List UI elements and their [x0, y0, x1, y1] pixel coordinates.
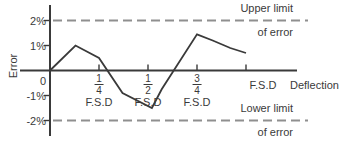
- fraction-denominator: 4: [192, 85, 202, 95]
- fraction-denominator: 4: [94, 85, 104, 95]
- fraction-numerator: 1: [143, 74, 153, 85]
- fraction-numerator: 1: [94, 74, 104, 85]
- x-tick-label-1-4: 14F.S.D: [86, 74, 113, 108]
- fraction: 12: [143, 74, 153, 95]
- lower-limit-label-line2: of error: [258, 126, 293, 138]
- y-tick-label-0: 0: [0, 75, 46, 87]
- x-tick-label-1-2: 12F.S.D: [135, 74, 162, 108]
- fraction: 34: [192, 74, 202, 95]
- y-tick-label-1pct: 1%: [0, 40, 46, 52]
- fraction: 14: [94, 74, 104, 95]
- x-axis-title: Deflection: [290, 79, 339, 91]
- y-tick-label-neg2pct: -2%: [0, 115, 46, 127]
- fsd-unit-label: F.S.D: [184, 97, 211, 108]
- x-tick-label-3-4: 34F.S.D: [184, 74, 211, 108]
- error-curve-chart: Error Deflection Upper limit of error Lo…: [0, 0, 347, 145]
- upper-limit-label: Upper limit: [240, 2, 293, 14]
- fsd-unit-label: F.S.D: [135, 97, 162, 108]
- x-tick-label-fsd: F.S.D: [250, 79, 277, 91]
- lower-limit-label: Lower limit: [240, 102, 293, 114]
- fsd-unit-label: F.S.D: [86, 97, 113, 108]
- upper-limit-label-line2: of error: [258, 26, 293, 38]
- fraction-denominator: 2: [143, 85, 153, 95]
- y-tick-label-neg1pct: -1%: [0, 90, 46, 102]
- y-tick-label-2pct: 2%: [0, 15, 46, 27]
- fraction-numerator: 3: [192, 74, 202, 85]
- chart-canvas: [0, 0, 347, 145]
